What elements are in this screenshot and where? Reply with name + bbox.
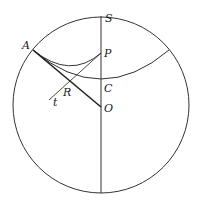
tangent-line-t bbox=[49, 53, 101, 100]
label-s: S bbox=[105, 12, 113, 25]
label-c: C bbox=[104, 82, 113, 95]
geometry-diagram: S A P C R O t bbox=[0, 0, 201, 205]
label-r: R bbox=[62, 86, 71, 99]
label-a: A bbox=[21, 39, 30, 52]
label-o: O bbox=[104, 102, 113, 115]
label-p: P bbox=[103, 47, 112, 60]
label-t: t bbox=[53, 96, 58, 109]
